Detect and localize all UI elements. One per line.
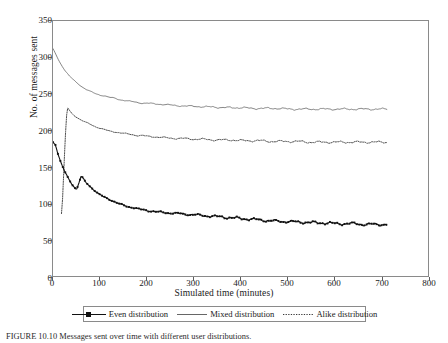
series-mixed-distribution	[53, 49, 387, 111]
x-tick-mark	[146, 277, 147, 281]
x-tick-mark	[52, 277, 53, 281]
figure-caption: FIGURE 10.10 Messages sent over time wit…	[6, 332, 442, 342]
legend-item-alike[interactable]: Alike distribution	[283, 310, 377, 319]
even-distribution-markers	[53, 141, 387, 226]
legend-swatch-mixed-icon	[177, 310, 207, 319]
x-tick-mark	[99, 277, 100, 281]
chart-legend: Even distribution Mixed distribution Ali…	[83, 306, 366, 322]
legend-item-even[interactable]: Even distribution	[72, 310, 168, 319]
x-tick-mark	[193, 277, 194, 281]
legend-label-alike: Alike distribution	[316, 310, 377, 319]
legend-label-mixed: Mixed distribution	[210, 310, 274, 319]
y-tick-label-50: 50	[22, 237, 52, 246]
y-tick-label-150: 150	[22, 164, 52, 173]
series-alike-distribution	[61, 108, 387, 213]
x-tick-mark	[287, 277, 288, 281]
figure-container: No. of messages sent 0 50 100 150 200 25…	[0, 0, 448, 343]
x-axis-title: Simulated time (minutes)	[0, 288, 448, 298]
x-tick-mark	[429, 277, 430, 281]
y-tick-label-200: 200	[22, 127, 52, 136]
x-tick-mark	[334, 277, 335, 281]
legend-swatch-alike-icon	[283, 310, 313, 319]
legend-label-even: Even distribution	[109, 310, 168, 319]
y-tick-label-250: 250	[22, 90, 52, 99]
chart-canvas	[53, 21, 430, 278]
series-even-distribution	[53, 141, 387, 226]
x-tick-mark	[240, 277, 241, 281]
y-axis-title: No. of messages sent	[29, 7, 39, 147]
x-tick-mark	[382, 277, 383, 281]
legend-item-mixed[interactable]: Mixed distribution	[177, 310, 274, 319]
plot-area	[52, 20, 429, 277]
legend-swatch-even-icon	[72, 310, 106, 319]
